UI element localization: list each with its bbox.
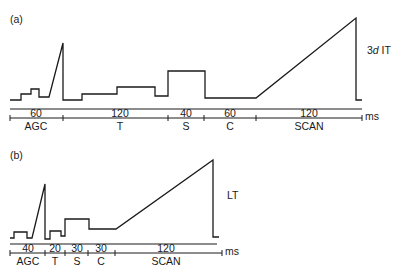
panel-b-segment-name: T	[52, 255, 59, 267]
panel-a-label: (a)	[10, 13, 23, 25]
panel-b-label: (b)	[10, 149, 23, 161]
panel-b-segment-name: S	[73, 255, 80, 267]
panel-b-side-label: LT	[227, 189, 239, 201]
panel-a-waveform	[10, 18, 362, 100]
panel-a-duration: 40	[180, 107, 192, 119]
panel-b-segment-name: C	[97, 255, 105, 267]
panel-a-segment-name: SCAN	[294, 120, 323, 132]
panel-a-duration: 60	[30, 107, 42, 119]
panel-a-segment-name: T	[117, 120, 124, 132]
panel-a-segment-name: AGC	[25, 120, 48, 132]
panel-b-segment-name: AGC	[17, 255, 40, 267]
panel-b-duration: 20	[49, 242, 61, 254]
panel-a-duration: 120	[111, 107, 129, 119]
panel-b-duration: 30	[71, 242, 83, 254]
timing-diagram: (a) 3d IT 60 120 40 60 120 AGC T S C SCA…	[0, 0, 400, 274]
panel-b-waveform	[10, 160, 219, 239]
panel-b-duration: 120	[157, 242, 175, 254]
panel-a-side-label: 3d IT	[367, 44, 392, 56]
panel-a-segment-name: S	[182, 120, 189, 132]
panel-a-segment-name: C	[226, 120, 234, 132]
panel-b-duration: 40	[22, 242, 34, 254]
panel-b-duration: 30	[95, 242, 107, 254]
panel-b-segment-name: SCAN	[151, 255, 180, 267]
panel-a-duration: 120	[300, 107, 318, 119]
panel-a-duration: 60	[224, 107, 236, 119]
panel-b-unit: ms	[225, 245, 239, 257]
panel-a-unit: ms	[365, 110, 379, 122]
